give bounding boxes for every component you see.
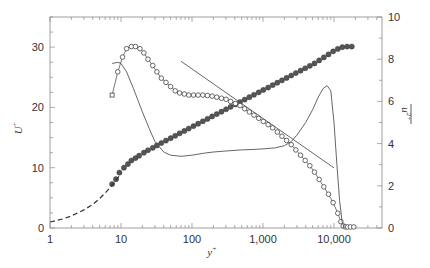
svg-text:u2+: u2+ — [400, 107, 413, 121]
data-series — [50, 44, 356, 229]
y-right-tick-label: 4 — [388, 138, 394, 150]
chart: 1101001,00010,00001020300246810 y+ U+ u2… — [0, 0, 430, 268]
y-left-tick-label: 10 — [32, 162, 44, 174]
y-right-tick-label: 8 — [388, 53, 394, 65]
x-axis-title: y+ — [206, 245, 217, 258]
series-3 — [112, 62, 344, 228]
y-left-tick-label: 20 — [32, 101, 44, 113]
x-tick-label: 100 — [183, 233, 201, 245]
plot-frame — [50, 17, 382, 228]
y-right-tick-label: 6 — [388, 95, 394, 107]
y-left-tick-label: 0 — [38, 222, 44, 234]
y-left-axis-title: U+ — [11, 121, 24, 134]
series-2 — [110, 44, 356, 229]
y-right-tick-label: 2 — [388, 180, 394, 192]
axis-ticks — [50, 17, 382, 228]
y-left-tick-label: 30 — [32, 41, 44, 53]
series-1 — [50, 174, 121, 222]
x-tick-label: 10 — [115, 233, 127, 245]
series-0 — [110, 44, 355, 187]
y-right-tick-label: 0 — [388, 222, 394, 234]
y-right-tick-label: 10 — [388, 11, 400, 23]
x-tick-label: 10,000 — [317, 233, 351, 245]
y-right-axis-title: u2+ — [400, 104, 413, 124]
x-tick-label: 1,000 — [249, 233, 277, 245]
x-tick-label: 1 — [47, 233, 53, 245]
series-4 — [181, 61, 334, 168]
